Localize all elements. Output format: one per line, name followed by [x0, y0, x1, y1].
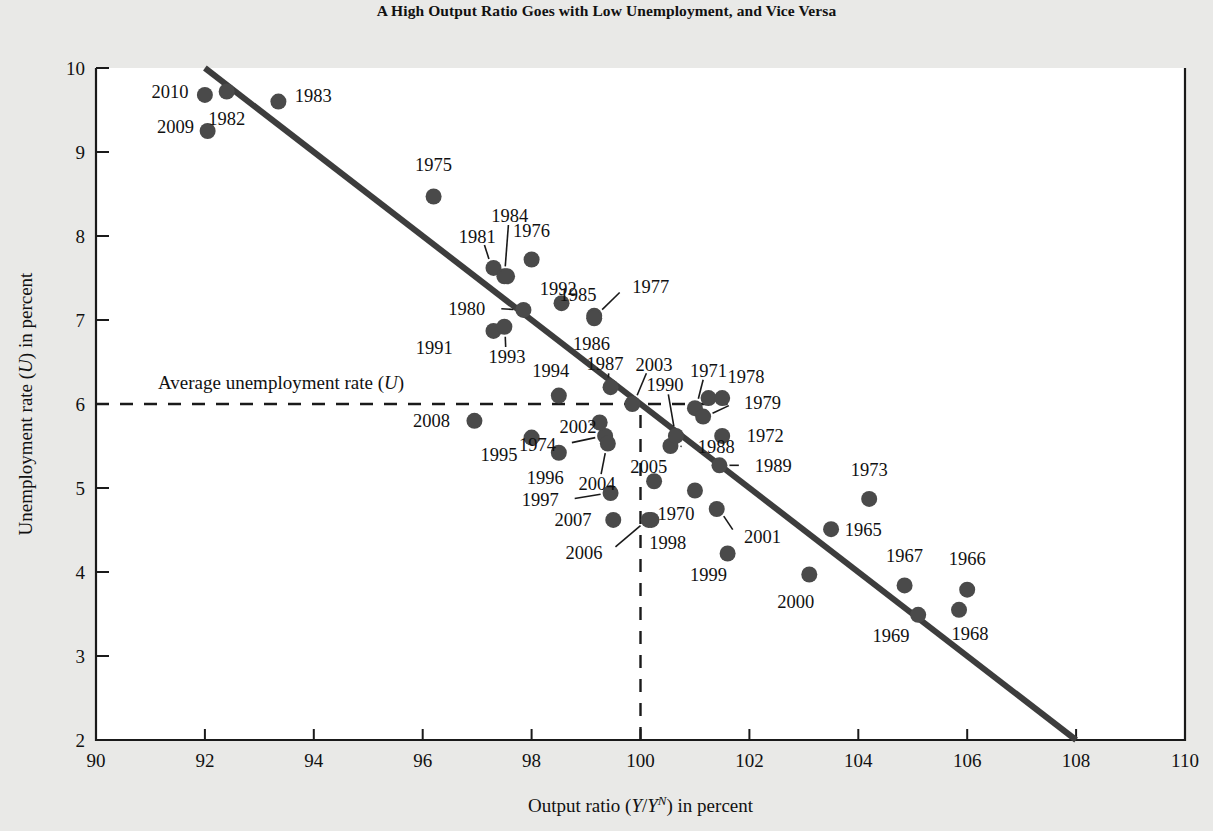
point-label-1979: 1979: [744, 393, 781, 413]
annotations-group: Average unemployment rate (U): [96, 372, 728, 740]
point-label-1969: 1969: [872, 626, 909, 646]
data-point-1966[interactable]: [959, 582, 975, 598]
data-point-2008[interactable]: [466, 413, 482, 429]
leader-line-1984: [505, 225, 508, 266]
data-point-2007[interactable]: [605, 512, 621, 528]
data-point-2010[interactable]: [197, 87, 213, 103]
leader-line-1980: [501, 309, 513, 310]
leader-line-2003: [637, 373, 646, 395]
data-point-1983[interactable]: [270, 94, 286, 110]
x-tick-label-108: 108: [1062, 750, 1091, 771]
data-point-1968[interactable]: [951, 602, 967, 618]
point-label-1987: 1987: [587, 354, 624, 374]
data-point-1975[interactable]: [426, 189, 442, 205]
data-point-1986[interactable]: [586, 310, 602, 326]
data-point-1989[interactable]: [711, 457, 727, 473]
data-point-2101-hidden[interactable]: [714, 390, 730, 406]
point-label-2003: 2003: [636, 355, 673, 375]
data-point-1978[interactable]: [701, 390, 717, 406]
leader-line-1979: [713, 406, 729, 414]
x-tick-label-110: 110: [1171, 750, 1199, 771]
point-label-2007: 2007: [554, 510, 591, 530]
data-point-1992[interactable]: [499, 268, 515, 284]
point-label-1981: 1981: [459, 227, 496, 247]
leader-line-1977: [602, 293, 620, 310]
point-label-1972: 1972: [747, 426, 784, 446]
point-label-2002: 2002: [559, 417, 596, 437]
axis-titles-group: Output ratio (Y/YN) in percentUnemployme…: [15, 272, 754, 817]
point-label-1982: 1982: [208, 109, 245, 129]
data-point-1980[interactable]: [515, 302, 531, 318]
x-tick-label-102: 102: [735, 750, 764, 771]
point-label-1967: 1967: [886, 546, 923, 566]
data-point-2004[interactable]: [600, 435, 616, 451]
data-point-1976[interactable]: [524, 252, 540, 268]
point-label-2006: 2006: [565, 543, 602, 563]
y-tick-label-8: 8: [76, 226, 86, 247]
point-label-1999: 1999: [690, 565, 727, 585]
y-tick-label-2: 2: [76, 730, 86, 751]
data-point-1970[interactable]: [687, 483, 703, 499]
data-point-1987[interactable]: [603, 379, 619, 395]
point-label-2009: 2009: [157, 117, 194, 137]
x-tick-label-96: 96: [413, 750, 432, 771]
y-tick-label-6: 6: [76, 394, 86, 415]
data-point-1994[interactable]: [551, 388, 567, 404]
data-point-1982[interactable]: [219, 84, 235, 100]
y-tick-label-10: 10: [66, 58, 85, 79]
point-label-1997: 1997: [522, 490, 559, 510]
leader-line-1997: [575, 494, 601, 498]
leader-line-2006: [615, 526, 640, 547]
x-tick-label-94: 94: [304, 750, 324, 771]
point-label-1998: 1998: [649, 533, 686, 553]
point-label-1995: 1995: [480, 445, 517, 465]
point-label-1965: 1965: [845, 520, 882, 540]
x-tick-label-104: 104: [844, 750, 873, 771]
point-label-1974: 1974: [519, 435, 556, 455]
point-label-1986: 1986: [573, 334, 610, 354]
average-unemployment-label: Average unemployment rate (U): [158, 372, 404, 394]
data-point-1965[interactable]: [823, 521, 839, 537]
axes-group: 90929496981001021041061081102345678910: [66, 58, 1199, 771]
point-label-1991: 1991: [416, 338, 453, 358]
data-point-2001[interactable]: [709, 501, 725, 517]
data-point-2000[interactable]: [801, 567, 817, 583]
point-label-2004: 2004: [578, 474, 615, 494]
y-tick-label-4: 4: [76, 562, 86, 583]
point-label-1992: 1992: [540, 279, 577, 299]
y-tick-label-9: 9: [76, 142, 86, 163]
point-label-1994: 1994: [532, 361, 569, 381]
point-label-2010: 2010: [152, 82, 189, 102]
data-point-1990[interactable]: [668, 428, 684, 444]
point-label-1988: 1988: [698, 437, 735, 457]
point-label-1975: 1975: [415, 155, 452, 175]
leader-line-1974: [572, 438, 595, 443]
x-tick-label-106: 106: [953, 750, 982, 771]
point-labels-group: 1965196619671968196919701971197219731974…: [152, 82, 989, 646]
data-point-1999[interactable]: [720, 546, 736, 562]
leader-line-1981: [484, 245, 488, 259]
point-label-2001: 2001: [744, 527, 781, 547]
point-label-1966: 1966: [949, 549, 986, 569]
point-label-1973: 1973: [851, 460, 888, 480]
leader-line-2001: [724, 516, 733, 529]
data-point-1973[interactable]: [861, 491, 877, 507]
point-label-2008: 2008: [413, 411, 450, 431]
x-axis-title: Output ratio (Y/YN) in percent: [528, 793, 754, 817]
data-point-2006[interactable]: [641, 512, 657, 528]
x-tick-label-98: 98: [522, 750, 541, 771]
data-point-1969[interactable]: [910, 607, 926, 623]
x-tick-label-90: 90: [87, 750, 106, 771]
y-tick-label-3: 3: [76, 646, 86, 667]
point-label-1978: 1978: [728, 367, 765, 387]
scatter-chart: 90929496981001021041061081102345678910 A…: [0, 0, 1213, 831]
data-point-1967[interactable]: [897, 577, 913, 593]
x-tick-label-92: 92: [195, 750, 214, 771]
point-label-2000: 2000: [777, 592, 814, 612]
data-point-1979[interactable]: [695, 409, 711, 425]
data-point-1993[interactable]: [496, 319, 512, 335]
point-label-1989: 1989: [755, 456, 792, 476]
data-point-2003[interactable]: [624, 396, 640, 412]
point-label-1970: 1970: [657, 504, 694, 524]
y-tick-label-5: 5: [76, 478, 86, 499]
